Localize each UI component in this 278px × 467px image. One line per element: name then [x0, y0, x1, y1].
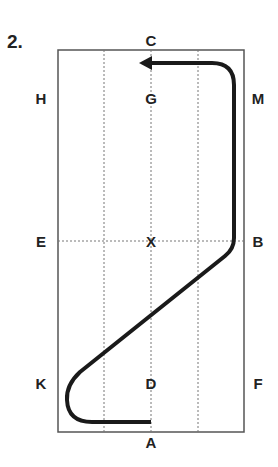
letter-x: X — [146, 233, 156, 250]
letter-g: G — [145, 90, 157, 107]
letter-d: D — [146, 375, 157, 392]
letter-m: M — [252, 90, 265, 107]
figure-number: 2. — [7, 31, 23, 52]
letter-a: A — [146, 434, 157, 451]
letter-h: H — [36, 90, 47, 107]
letter-k: K — [36, 375, 47, 392]
dressage-arena-diagram: 2. C A H E K M B F G X D — [0, 0, 278, 467]
letter-c: C — [146, 32, 157, 49]
letter-e: E — [36, 233, 46, 250]
letter-b: B — [253, 233, 264, 250]
arrow-head-icon — [139, 56, 152, 70]
letter-f: F — [253, 375, 262, 392]
